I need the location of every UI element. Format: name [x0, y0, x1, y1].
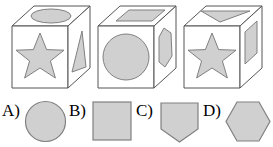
- answer-option-b[interactable]: B): [69, 95, 137, 147]
- option-a-label: A): [2, 102, 20, 119]
- answer-option-a[interactable]: A): [2, 95, 70, 147]
- answer-options-row: A) B) C): [0, 95, 273, 147]
- cube-one[interactable]: [6, 0, 98, 95]
- option-b-label: B): [69, 102, 86, 119]
- option-c-label: C): [136, 102, 153, 119]
- cube-two[interactable]: [92, 0, 184, 95]
- cube-one-top-shape-ellipse: [31, 9, 71, 23]
- answer-option-d[interactable]: D): [203, 95, 273, 147]
- puzzle-page: A) B) C): [0, 0, 273, 147]
- cube-row: [0, 0, 273, 95]
- cube-two-front-shape-circle: [103, 34, 149, 80]
- answer-option-c[interactable]: C): [136, 95, 204, 147]
- option-d-shape-hexagon: [224, 99, 272, 144]
- cube-three[interactable]: [178, 0, 270, 95]
- option-c-shape-pentagon: [157, 99, 202, 144]
- option-d-label: D): [203, 102, 221, 119]
- option-a-shape-circle: [23, 99, 68, 144]
- option-b-shape-square: [90, 99, 135, 144]
